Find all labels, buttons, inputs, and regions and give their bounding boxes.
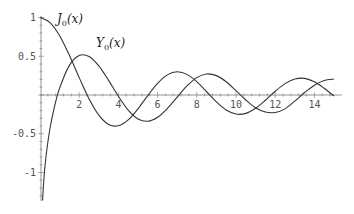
y-tick-label: 0.5 [18,51,36,62]
x-tick-label: 14 [308,99,320,110]
label-y0: Y0(x) [96,36,125,52]
y-tick-label: -1 [24,167,36,178]
j0-curve [40,18,334,127]
x-tick-label: 8 [194,99,200,110]
x-tick-label: 2 [76,99,82,110]
axes: 246810121410.5-0.5-1 [12,12,342,201]
bessel-plot: 246810121410.5-0.5-1 J0(x) Y0(x) [0,0,354,213]
x-tick-label: 10 [230,99,242,110]
y-tick-label: -0.5 [12,128,36,139]
x-tick-label: 4 [115,99,121,110]
y0-curve [41,55,334,213]
x-tick-label: 12 [269,99,281,110]
x-tick-label: 6 [155,99,161,110]
curves [40,18,334,214]
label-j0: J0(x) [54,12,83,28]
y-tick-label: 1 [30,12,36,23]
